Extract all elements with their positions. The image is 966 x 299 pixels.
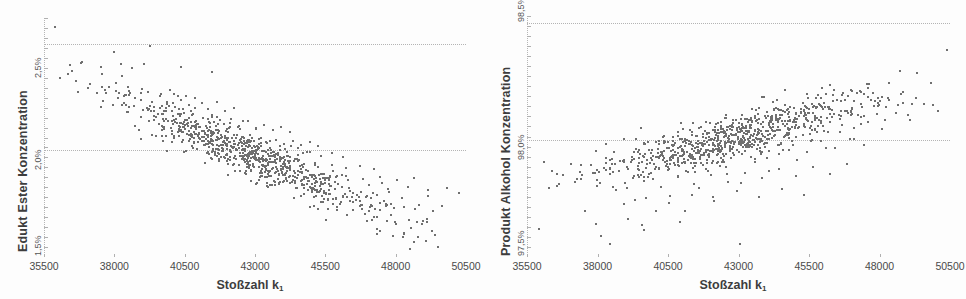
scatter-point [815, 97, 817, 99]
scatter-point [332, 198, 334, 200]
scatter-point [352, 209, 354, 211]
scatter-point [220, 144, 222, 146]
scatter-point [738, 151, 740, 153]
scatter-point [187, 125, 189, 127]
y-tick-mark [527, 227, 531, 228]
scatter-point [668, 168, 670, 170]
scatter-point [308, 180, 310, 182]
scatter-point [685, 170, 687, 172]
scatter-point [698, 187, 700, 189]
scatter-point [782, 123, 784, 125]
y-tick-mark [44, 167, 48, 168]
scatter-point [595, 223, 597, 225]
scatter-point [698, 152, 700, 154]
scatter-point [633, 151, 635, 153]
scatter-point [814, 128, 816, 130]
scatter-point [361, 208, 363, 210]
scatter-point [677, 164, 679, 166]
scatter-point [242, 120, 244, 122]
scatter-point [775, 116, 777, 118]
scatter-point [327, 198, 329, 200]
scatter-point [637, 165, 639, 167]
scatter-point [101, 73, 103, 75]
scatter-point [239, 170, 241, 172]
scatter-point [105, 92, 107, 94]
scatter-point [730, 157, 732, 159]
scatter-point [937, 110, 939, 112]
scatter-point [902, 102, 904, 104]
scatter-point [207, 136, 209, 138]
scatter-point [706, 132, 708, 134]
scatter-point [684, 161, 686, 163]
scatter-point [120, 63, 122, 65]
scatter-point [221, 150, 223, 152]
scatter-point [709, 122, 711, 124]
scatter-point [735, 133, 737, 135]
scatter-point [235, 137, 237, 139]
scatter-point [733, 143, 735, 145]
scatter-point [792, 144, 794, 146]
scatter-point [278, 174, 280, 176]
scatter-point [160, 93, 162, 95]
scatter-point [806, 93, 808, 95]
scatter-point [163, 128, 165, 130]
scatter-point [716, 154, 718, 156]
scatter-point [296, 187, 298, 189]
scatter-point [177, 95, 179, 97]
scatter-point [261, 168, 263, 170]
scatter-point [829, 84, 831, 86]
scatter-point [366, 220, 368, 222]
scatter-point [724, 117, 726, 119]
scatter-point [840, 100, 842, 102]
scatter-point [662, 159, 664, 161]
scatter-point [283, 180, 285, 182]
scatter-point [624, 182, 626, 184]
x-tick-label: 50500 [451, 260, 480, 272]
scatter-point [100, 66, 102, 68]
scatter-point [784, 120, 786, 122]
scatter-point [812, 166, 814, 168]
scatter-point [697, 146, 699, 148]
scatter-point [723, 155, 725, 157]
y-tick-mark [44, 247, 48, 248]
scatter-point [720, 140, 722, 142]
scatter-point [315, 177, 317, 179]
scatter-point [314, 162, 316, 164]
scatter-point [335, 197, 337, 199]
scatter-point [233, 134, 235, 136]
scatter-point [756, 148, 758, 150]
y-tick-label: 97,5% [516, 230, 526, 256]
scatter-point [658, 157, 660, 159]
scatter-point [207, 143, 209, 145]
scatter-point [330, 185, 332, 187]
scatter-point [191, 134, 193, 136]
scatter-point [371, 219, 373, 221]
scatter-point [182, 108, 184, 110]
scatter-point [683, 158, 685, 160]
scatter-point [650, 157, 652, 159]
scatter-point [188, 130, 190, 132]
scatter-point [203, 144, 205, 146]
scatter-point [340, 201, 342, 203]
scatter-point [238, 147, 240, 149]
scatter-point [818, 103, 820, 105]
scatter-point [184, 128, 186, 130]
scatter-point [759, 141, 761, 143]
scatter-point [251, 147, 253, 149]
scatter-point [634, 199, 636, 201]
scatter-point [302, 166, 304, 168]
scatter-point [756, 134, 758, 136]
scatter-point [758, 118, 760, 120]
scatter-point [275, 139, 277, 141]
scatter-point [237, 144, 239, 146]
figure-canvas: Edukt Ester Konzentration 2,5% 2,0% 1,5%… [0, 0, 966, 299]
scatter-point [623, 138, 625, 140]
scatter-point [609, 173, 611, 175]
scatter-point [771, 129, 773, 131]
scatter-point [225, 130, 227, 132]
scatter-point [253, 166, 255, 168]
scatter-point [140, 92, 142, 94]
scatter-point [694, 165, 696, 167]
scatter-point [781, 188, 783, 190]
scatter-point [261, 150, 263, 152]
